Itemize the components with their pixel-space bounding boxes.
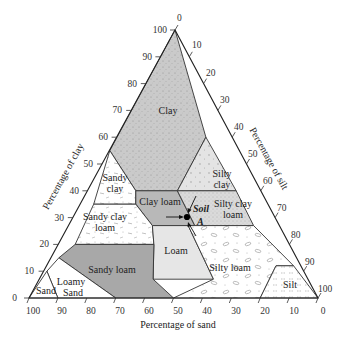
label-silty-clay-loam-1: Silty clay [214,198,252,209]
svg-text:10: 10 [25,266,35,276]
label-loamy-sand-1: Loamy [57,276,85,287]
svg-text:70: 70 [277,203,287,213]
label-sandy-clay-loam-2: loam [95,222,115,233]
svg-text:100: 100 [26,306,41,316]
label-sandy-loam: Sandy loam [88,264,136,275]
soil-a-label-1: Soil [193,203,209,214]
svg-text:30: 30 [220,95,230,105]
svg-text:80: 80 [291,230,301,240]
label-silty-clay-loam-2: loam [223,209,243,220]
svg-text:90: 90 [143,52,153,62]
svg-text:30: 30 [55,213,65,223]
label-silty-clay-1: Silty [213,168,232,179]
label-sandy-clay-1: Sandy [103,172,128,183]
label-sand: Sand [36,285,56,296]
sand-axis-title: Percentage of sand [140,319,216,330]
svg-text:40: 40 [234,122,244,132]
label-silty-clay-2: clay [214,179,231,190]
svg-text:20: 20 [206,68,216,78]
label-sandy-clay-2: clay [107,183,124,194]
svg-text:10: 10 [192,40,202,50]
svg-text:0: 0 [12,293,17,303]
svg-text:90: 90 [57,306,67,316]
sand-axis-labels: 100 90 80 70 60 50 40 30 20 10 0 [26,306,326,316]
svg-text:30: 30 [231,306,241,316]
svg-text:80: 80 [128,79,138,89]
svg-text:70: 70 [113,105,123,115]
svg-text:100: 100 [318,284,333,294]
soil-texture-triangle: 0 10 20 30 40 50 60 70 80 90 100 Percent… [0,0,347,348]
label-clay-loam: Clay loam [139,196,181,207]
svg-text:0: 0 [177,13,182,23]
soil-a-label-2: A [196,216,204,227]
svg-text:20: 20 [40,239,50,249]
label-loam: Loam [164,245,188,256]
svg-text:20: 20 [260,306,270,316]
svg-text:40: 40 [70,186,80,196]
svg-text:60: 60 [144,306,154,316]
svg-text:100: 100 [153,25,168,35]
sand-axis-ticks [27,298,318,303]
svg-text:60: 60 [99,132,109,142]
svg-text:50: 50 [248,149,258,159]
svg-text:40: 40 [202,306,212,316]
label-clay: Clay [159,105,178,116]
svg-text:90: 90 [305,257,315,267]
label-silt: Silt [283,279,297,290]
svg-text:50: 50 [84,159,94,169]
svg-text:0: 0 [321,306,326,316]
svg-text:80: 80 [86,306,96,316]
svg-text:70: 70 [115,306,125,316]
svg-text:10: 10 [289,306,299,316]
svg-text:60: 60 [263,176,273,186]
svg-text:50: 50 [173,306,183,316]
label-sandy-clay-loam-1: Sandy clay [83,211,127,222]
label-loamy-sand-2: Sand [63,287,83,298]
soil-a-point [184,214,190,220]
clay-axis-title: Percentage of clay [40,141,85,211]
label-silty-loam: Silty loam [209,262,251,273]
